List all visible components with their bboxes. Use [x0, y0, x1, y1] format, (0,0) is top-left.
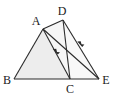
vertex-label-c: C — [66, 82, 74, 96]
vertex-label-b: B — [3, 73, 11, 87]
vertex-label-d: D — [58, 4, 67, 18]
geometry-figure-svg: A B C D E — [0, 0, 116, 97]
geometry-figure-container: A B C D E — [0, 0, 116, 97]
vertex-label-e: E — [102, 73, 109, 87]
vertex-label-a: A — [32, 14, 41, 28]
